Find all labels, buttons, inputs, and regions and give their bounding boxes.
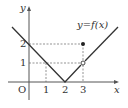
- filled-point: [81, 42, 85, 46]
- x-tick-3: 3: [80, 85, 86, 95]
- y-tick-1: 1: [20, 58, 26, 68]
- y-axis-label: y: [20, 3, 26, 13]
- x-axis-label: x: [114, 85, 120, 95]
- y-tick-2: 2: [20, 39, 26, 49]
- graph-left-line: [12, 27, 81, 82]
- y-axis-arrow-icon: [27, 6, 31, 11]
- open-point: [81, 61, 85, 65]
- x-tick-1: 1: [43, 85, 49, 95]
- origin-label: O: [18, 85, 26, 95]
- x-tick-2: 2: [62, 85, 68, 95]
- graph-right-line: [85, 27, 118, 61]
- dashed-guides: [29, 44, 83, 82]
- function-label: y=f(x): [77, 20, 108, 30]
- function-graph: y x y=f(x) O 1 2 3 1 2: [0, 0, 128, 108]
